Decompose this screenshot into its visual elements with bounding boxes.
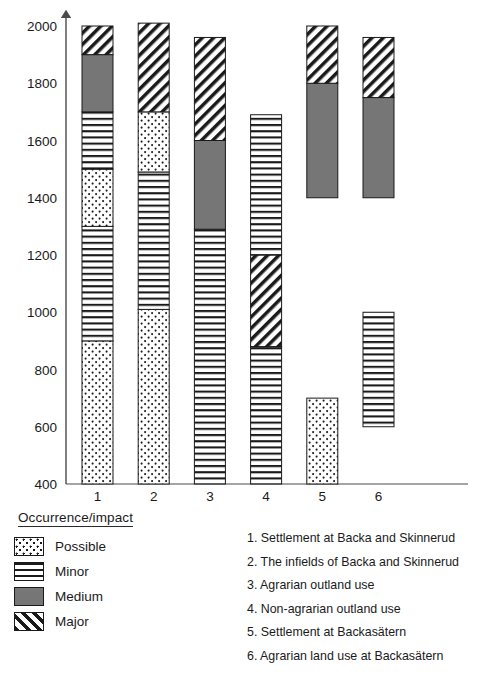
key-list-item-label: Non-agrarian outland use [261,602,401,616]
legend-swatch-possible [14,537,44,556]
legend: Occurrence/impact Possible Minor Medium … [14,508,234,634]
stacked-bar-plot: 400600800100012001400160018002000 123456 [0,0,491,510]
bar-segment [251,115,282,255]
key-list-item-number: 2. [247,555,261,569]
legend-swatch-major [14,612,44,631]
bar-segment [82,26,113,55]
bar-segment [251,347,282,484]
legend-item-possible: Possible [14,534,234,559]
bar-segment [82,169,113,226]
x-axis-tick-label: 2 [150,489,158,504]
legend-swatch-minor [14,562,44,581]
bar-segment [82,226,113,341]
bar-segment [82,112,113,169]
x-axis-tick-label: 4 [262,489,270,504]
y-axis-tick-label: 1800 [27,76,57,91]
bar-segment [194,37,225,140]
legend-label-medium: Medium [55,589,103,604]
legend-item-minor: Minor [14,559,234,584]
bar-segment [138,172,169,309]
bar-segment [363,312,394,427]
bar-group [307,26,338,484]
bar-segment [194,229,225,484]
bar-group [363,37,394,426]
x-axis-tick-label: 5 [319,489,327,504]
bar-segment [194,141,225,230]
key-list-item-number: 3. [247,578,260,592]
key-list-item: 3. Agrarian outland use [247,574,491,598]
legend-swatch-medium [14,587,44,606]
key-list-item-number: 1. [247,531,261,545]
x-axis-tick-label: 6 [375,489,383,504]
category-key-list: 1. Settlement at Backa and Skinnerud2. T… [247,527,491,668]
bar-segment [82,341,113,484]
key-list-item-label: Agrarian land use at Backasätern [260,649,443,663]
legend-label-possible: Possible [55,539,106,554]
bars-layer [82,23,394,484]
bar-group [138,23,169,484]
key-list-item-label: The infields of Backa and Skinnerud [261,555,459,569]
y-axis-tick-label: 1200 [27,248,57,263]
key-list-item: 1. Settlement at Backa and Skinnerud [247,527,491,551]
key-list-item-label: Agrarian outland use [260,578,374,592]
legend-label-major: Major [55,614,89,629]
legend-item-medium: Medium [14,584,234,609]
y-axis-tick-label: 1000 [27,305,57,320]
chart-figure: 400600800100012001400160018002000 123456… [0,0,491,678]
key-list-item-label: Settlement at Backa and Skinnerud [261,531,455,545]
y-axis-tick-label: 400 [34,477,57,492]
bar-segment [363,37,394,97]
bar-segment [138,23,169,112]
y-axis-tick-label: 1600 [27,134,57,149]
y-axis-tick-label: 2000 [27,19,57,34]
bar-segment [307,83,338,198]
legend-item-major: Major [14,609,234,634]
key-list-item: 5. Settlement at Backasätern [247,621,491,645]
bar-segment [251,255,282,347]
x-axis-tick-label: 1 [94,489,102,504]
key-list-item-number: 5. [247,625,261,639]
y-axis-tick-label: 800 [34,363,57,378]
bar-group [82,26,113,484]
bar-group [194,37,225,484]
bar-group [251,115,282,484]
legend-label-minor: Minor [55,564,89,579]
key-list-item-label: Settlement at Backasätern [261,625,406,639]
key-list-item-number: 6. [247,649,260,663]
key-list-item: 6. Agrarian land use at Backasätern [247,645,491,669]
y-axis-ticks: 400600800100012001400160018002000 [27,19,57,492]
y-axis-tick-label: 600 [34,420,57,435]
key-list-item: 4. Non-agrarian outland use [247,598,491,622]
legend-title: Occurrence/impact [18,510,133,527]
bar-segment [138,112,169,172]
bar-segment [82,55,113,112]
key-list-item: 2. The infields of Backa and Skinnerud [247,551,491,575]
bar-segment [363,98,394,198]
x-axis-tick-label: 3 [206,489,214,504]
y-axis-tick-label: 1400 [27,191,57,206]
bar-segment [307,26,338,83]
bar-segment [307,398,338,484]
bar-segment [138,309,169,484]
x-axis-ticks: 123456 [94,489,383,504]
key-list-item-number: 4. [247,602,261,616]
